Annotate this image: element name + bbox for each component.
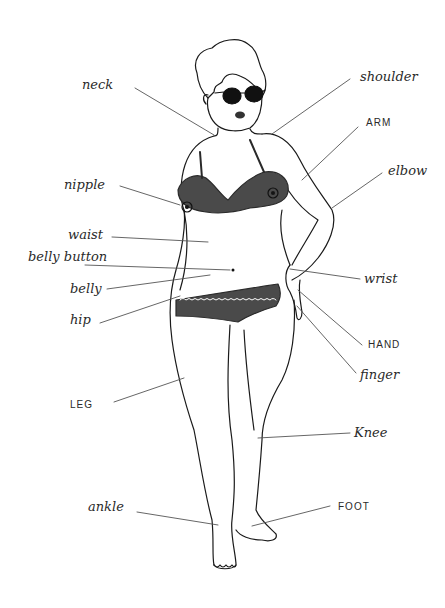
inner-left-leg xyxy=(214,325,236,569)
label-knee: Knee xyxy=(354,426,387,439)
leader-finger xyxy=(297,306,356,373)
leader-shoulder xyxy=(272,79,350,134)
label-finger: finger xyxy=(360,368,399,381)
label-hip: hip xyxy=(70,313,91,326)
right-shoulder-arm xyxy=(262,134,334,280)
leader-foot xyxy=(252,506,330,526)
label-ankle: ankle xyxy=(88,500,124,513)
label-foot: FOOT xyxy=(338,502,370,512)
label-neck: neck xyxy=(82,78,113,91)
leader-arm xyxy=(302,127,358,180)
neck-outline xyxy=(214,128,262,136)
leader-nipple xyxy=(120,186,180,205)
bra-strap-right xyxy=(250,140,264,172)
right-inner-arm xyxy=(288,190,318,265)
leader-hip xyxy=(100,296,180,323)
label-leg: LEG xyxy=(70,400,93,410)
label-nipple: nipple xyxy=(64,178,105,191)
inner-right-leg xyxy=(244,330,254,430)
leader-neck xyxy=(135,88,214,135)
leader-belly-button xyxy=(85,265,230,270)
panties xyxy=(176,284,280,322)
label-hand: HAND xyxy=(368,340,400,350)
left-foot-toes xyxy=(214,565,236,567)
leader-leg xyxy=(114,378,184,402)
figure-drawing xyxy=(0,0,445,608)
belly-button-dot xyxy=(232,269,235,272)
label-elbow: elbow xyxy=(388,164,427,177)
label-wrist: wrist xyxy=(364,272,397,285)
leader-ankle xyxy=(137,512,218,525)
leader-belly xyxy=(107,275,210,289)
sunglasses-icon xyxy=(215,86,265,104)
label-arm: ARM xyxy=(366,118,391,128)
leader-wrist xyxy=(290,269,360,279)
leader-waist xyxy=(112,237,208,242)
label-belly-button: belly button xyxy=(28,250,107,263)
label-shoulder: shoulder xyxy=(360,70,418,83)
leader-elbow xyxy=(332,173,382,208)
mouth xyxy=(235,112,245,119)
bra-strap-left xyxy=(200,152,202,178)
label-belly: belly xyxy=(70,282,102,295)
label-waist: waist xyxy=(68,228,103,241)
right-waist xyxy=(281,210,290,265)
leader-knee xyxy=(258,433,350,438)
